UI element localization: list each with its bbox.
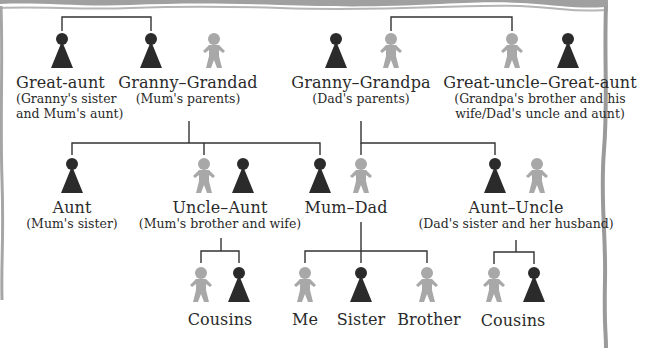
female-icon (522, 266, 546, 303)
male-icon (293, 266, 317, 303)
label-cousins-dad-side: Cousins (481, 312, 546, 330)
label-name: Uncle–Aunt (139, 199, 301, 217)
female-icon (308, 157, 332, 194)
male-icon (482, 266, 506, 303)
family-tree-diagram: Great-aunt (Granny's sister and Mum's au… (0, 0, 648, 348)
female-icon (50, 32, 74, 69)
label-name: Me (292, 311, 318, 329)
female-icon (349, 266, 373, 303)
label-sub: (Mum's sister) (26, 217, 118, 231)
label-aunt-uncle: Aunt–Uncle (Dad's sister and her husband… (418, 199, 613, 232)
female-icon (483, 157, 507, 194)
label-sub: (Grandpa's brother and his (443, 92, 636, 106)
right-border (603, 6, 606, 348)
label-uncle-aunt: Uncle–Aunt (Mum's brother and wife) (139, 199, 301, 232)
label-name: Aunt (26, 199, 118, 217)
label-granny-grandpa: Granny–Grandpa (Dad's parents) (291, 74, 430, 107)
label-sub: (Mum's parents) (118, 92, 257, 106)
label-sub: wife/Dad's uncle and aunt) (443, 107, 636, 121)
top-border (0, 0, 648, 8)
label-name: Aunt–Uncle (418, 199, 613, 217)
male-icon (189, 266, 213, 303)
male-icon (349, 157, 373, 194)
label-brother: Brother (397, 311, 461, 329)
female-icon (556, 32, 580, 69)
label-name: Mum–Dad (304, 199, 387, 217)
male-icon (415, 266, 439, 303)
label-sub: (Granny's sister (16, 92, 123, 106)
male-icon (202, 32, 226, 69)
label-great-uncle-great-aunt: Great-uncle–Great-aunt (Grandpa's brothe… (443, 74, 636, 121)
male-icon (379, 32, 403, 69)
female-icon (227, 266, 251, 303)
label-cousins-mum-side: Cousins (188, 311, 253, 329)
label-granny-grandad: Granny–Grandad (Mum's parents) (118, 74, 257, 107)
label-name: Great-aunt (16, 74, 123, 92)
label-name: Cousins (481, 312, 546, 330)
left-border (1, 6, 3, 300)
label-sub: (Mum's brother and wife) (139, 217, 301, 231)
female-icon (324, 32, 348, 69)
label-name: Granny–Grandpa (291, 74, 430, 92)
label-sister: Sister (337, 311, 385, 329)
male-icon (192, 157, 216, 194)
label-name: Sister (337, 311, 385, 329)
label-aunt: Aunt (Mum's sister) (26, 199, 118, 232)
female-icon (231, 157, 255, 194)
label-sub: (Dad's sister and her husband) (418, 217, 613, 231)
label-name: Brother (397, 311, 461, 329)
label-name: Cousins (188, 311, 253, 329)
female-icon (60, 157, 84, 194)
label-name: Granny–Grandad (118, 74, 257, 92)
male-icon (525, 157, 549, 194)
label-mum-dad: Mum–Dad (304, 199, 387, 217)
female-icon (139, 32, 163, 69)
male-icon (500, 32, 524, 69)
label-sub: and Mum's aunt) (16, 107, 123, 121)
label-great-aunt: Great-aunt (Granny's sister and Mum's au… (16, 74, 123, 121)
label-sub: (Dad's parents) (291, 92, 430, 106)
label-name: Great-uncle–Great-aunt (443, 74, 636, 92)
label-me: Me (292, 311, 318, 329)
